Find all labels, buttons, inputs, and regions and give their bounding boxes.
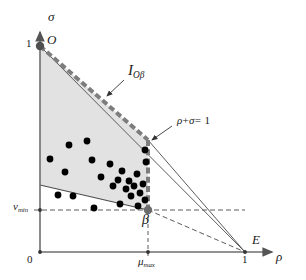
scatter-point [142,147,149,154]
y-tick-label-1: 1 [26,38,32,49]
scatter-point [110,183,117,190]
scatter-point [62,169,69,176]
scatter-point [119,168,126,175]
scatter-point [98,174,105,181]
interval-label-subscript: Oβ [133,70,144,80]
apex-to-E-line [148,140,245,252]
constraint-label-rho-plus-sigma: ρ+σ= 1 [177,115,210,126]
scatter-point [143,159,150,166]
nu-min-subscript: min [18,206,28,213]
axis-label-rho: ρ [276,250,282,263]
scatter-point [131,183,138,190]
beta-to-E-dashed [148,210,245,252]
scatter-point [66,142,73,149]
scatter-point [134,171,141,178]
label-pointer-constraint [152,126,172,140]
scatter-point [70,193,77,200]
point-label-O: O [47,33,56,46]
scatter-point [140,181,147,188]
point-label-E: E [252,233,260,246]
scatter-point [91,205,98,212]
origin-marker [38,250,42,254]
point-label-beta: β [142,213,149,227]
scatter-point [142,197,149,204]
scatter-point [117,201,124,208]
mu-max-subscript: max [144,261,155,268]
constraint-label-equals-one: = 1 [195,114,210,126]
scatter-point [115,177,122,184]
scatter-point [47,156,54,163]
scatter-point [107,161,114,168]
figure-canvas: σ ρ 1 1 0 O E β IOβ ρ+σ= 1 νmin μmax [0,0,306,280]
tick-nu-min-marker [38,208,42,212]
figure-svg [0,0,306,280]
scatter-point [126,178,133,185]
scatter-point [123,186,130,193]
tick-label-nu-min: νmin [13,201,28,214]
tick-label-mu-max: μmax [138,256,155,269]
point-O-marker [36,42,44,50]
scatter-point [137,190,144,197]
tick-mu-max-marker [146,250,150,254]
scatter-point [89,157,96,164]
axis-label-sigma: σ [48,10,54,23]
scatter-point [135,203,142,210]
scatter-point [84,138,91,145]
scatter-point [128,193,135,200]
x-tick-label-1: 1 [242,254,248,265]
interval-label-I-O-beta: IOβ [128,63,144,81]
label-pointer-I-O-beta [107,80,124,96]
origin-label-0: 0 [27,254,33,265]
scatter-point [55,192,62,199]
